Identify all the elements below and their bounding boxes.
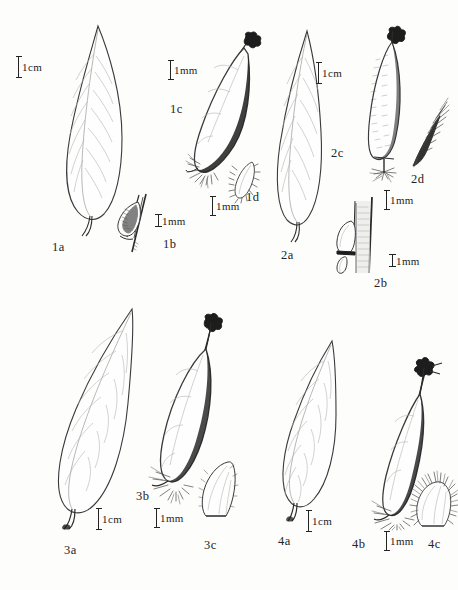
scale-bar-line — [318, 62, 319, 84]
figure-4a-leaf — [270, 337, 350, 522]
scale-bar-1d: 1mm — [212, 196, 240, 216]
scale-bar-4b: 1mm — [386, 531, 414, 551]
scale-bar-2b: 1mm — [392, 254, 420, 267]
figure-label-2c: 2c — [331, 146, 344, 161]
scale-bar-1a: 1cm — [18, 56, 42, 78]
figure-label-4a: 4a — [278, 534, 291, 549]
figure-2d-scale-bract — [395, 96, 451, 174]
scale-bar-1b: 1mm — [158, 214, 186, 227]
scale-bar-line — [158, 214, 159, 227]
figure-label-2b: 2b — [374, 276, 388, 291]
scale-bar-line — [156, 508, 157, 528]
figure-3a-leaf — [38, 305, 148, 530]
scale-bar-4a: 1cm — [308, 510, 332, 532]
figure-label-1d: 1d — [246, 190, 260, 205]
scale-bar-line — [386, 531, 387, 551]
scale-bar-label: 1mm — [396, 255, 420, 267]
figure-label-4c: 4c — [428, 537, 441, 552]
scale-bar-label: 1mm — [160, 512, 184, 524]
scale-bar-2c2d: 1mm — [386, 190, 414, 210]
scale-bar-line — [18, 56, 19, 78]
figure-label-1c: 1c — [170, 102, 183, 117]
scale-bar-label: 1cm — [312, 515, 332, 527]
figure-label-2d: 2d — [411, 172, 425, 187]
figure-4c-scale-bract — [410, 470, 458, 532]
scale-bar-label: 1cm — [322, 67, 342, 79]
scale-bar-line — [386, 190, 387, 210]
scale-bar-label: 1cm — [22, 61, 42, 73]
scale-bar-line — [98, 508, 99, 530]
figure-label-4b: 4b — [352, 537, 366, 552]
scale-bar-3b: 1mm — [156, 508, 184, 528]
scale-bar-line — [212, 196, 213, 216]
figure-label-3b: 3b — [136, 489, 150, 504]
figure-label-1b: 1b — [163, 237, 177, 252]
scale-bar-label: 1mm — [216, 200, 240, 212]
figure-label-1a: 1a — [52, 240, 65, 255]
scale-bar-2a: 1cm — [318, 62, 342, 84]
figure-label-3a: 3a — [64, 543, 77, 558]
scale-bar-label: 1cm — [102, 513, 122, 525]
scale-bar-1c: 1mm — [170, 60, 198, 80]
scale-bar-label: 1mm — [162, 215, 186, 227]
scale-bar-label: 1mm — [390, 194, 414, 206]
scale-bar-line — [392, 254, 393, 267]
figure-3c-scale-bract — [198, 458, 240, 520]
scale-bar-3a: 1cm — [98, 508, 122, 530]
figure-label-3c: 3c — [204, 538, 217, 553]
figure-label-2a: 2a — [281, 248, 294, 263]
scale-bar-line — [308, 510, 309, 532]
scale-bar-label: 1mm — [390, 535, 414, 547]
scale-bar-label: 1mm — [174, 64, 198, 76]
figure-2b-bud-stem — [325, 195, 387, 275]
scale-bar-line — [170, 60, 171, 80]
